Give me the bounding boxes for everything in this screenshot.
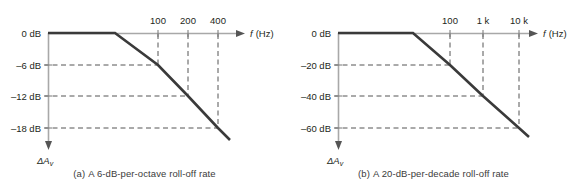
y-tick-label-0: 0 dB <box>311 28 331 39</box>
panel-a-caption: (a)A 6-dB-per-octave roll-off rate <box>0 168 289 179</box>
bode-plot-figure: 100 200 400 0 dB –6 dB –12 dB –18 dB f(H… <box>0 0 578 192</box>
y-tick-labels: 0 dB –20 dB –40 dB –60 dB <box>301 28 331 134</box>
y-axis-label-delta: ΔA <box>36 155 50 166</box>
x-tick-label-2: 400 <box>210 15 226 26</box>
y-tick-label-2: –12 dB <box>11 91 41 102</box>
panel-b-chart: 100 1 k 10 k 0 dB –20 dB –40 dB –60 dB f… <box>289 0 578 192</box>
horizontal-guide-lines <box>334 65 519 128</box>
x-tick-label-1: 200 <box>180 15 196 26</box>
y-tick-labels: 0 dB –6 dB –12 dB –18 dB <box>11 28 41 134</box>
panel-a-caption-text: A 6-dB-per-octave roll-off rate <box>88 168 215 179</box>
x-axis-label: f(Hz) <box>543 28 567 39</box>
panel-b-caption-label: (b) <box>358 168 370 179</box>
panel-a-chart: 100 200 400 0 dB –6 dB –12 dB –18 dB f(H… <box>0 0 289 192</box>
y-axis-label: ΔAv <box>36 155 54 167</box>
x-tick-label-0: 100 <box>442 15 458 26</box>
response-curve <box>338 33 529 137</box>
x-axis-label-unit: (Hz) <box>256 28 274 39</box>
y-tick-label-1: –20 dB <box>301 60 331 71</box>
x-axis-label: f(Hz) <box>250 28 274 39</box>
x-tick-label-1: 1 k <box>477 15 490 26</box>
x-axis-arrow-icon <box>529 30 538 37</box>
x-tick-label-2: 10 k <box>510 15 528 26</box>
vertical-guide-lines <box>450 34 519 128</box>
panel-a-caption-label: (a) <box>73 168 85 179</box>
x-axis-label-variable: f <box>250 28 254 39</box>
y-tick-label-0: 0 dB <box>21 28 41 39</box>
vertical-guide-lines <box>158 34 218 128</box>
x-tick-label-0: 100 <box>150 15 166 26</box>
y-tick-label-3: –18 dB <box>11 123 41 134</box>
x-axis-label-unit: (Hz) <box>549 28 567 39</box>
y-axis-label-delta: ΔA <box>326 155 340 166</box>
y-axis-label-subscript: v <box>50 160 54 167</box>
panel-b-caption-text: A 20-dB-per-decade roll-off rate <box>373 168 509 179</box>
x-tick-labels: 100 200 400 <box>150 15 226 26</box>
y-axis-arrow-icon <box>335 141 342 150</box>
horizontal-guide-lines <box>44 65 218 128</box>
x-axis-arrow-icon <box>236 30 245 37</box>
y-axis <box>335 33 342 150</box>
y-tick-label-1: –6 dB <box>16 60 41 71</box>
response-curve <box>48 33 230 140</box>
y-axis <box>45 33 52 150</box>
y-axis-label-subscript: v <box>340 160 344 167</box>
panel-b-20db-per-decade: 100 1 k 10 k 0 dB –20 dB –40 dB –60 dB f… <box>289 0 578 192</box>
panel-a-6db-per-octave: 100 200 400 0 dB –6 dB –12 dB –18 dB f(H… <box>0 0 289 192</box>
panel-b-caption: (b)A 20-dB-per-decade roll-off rate <box>289 168 578 179</box>
y-axis-label: ΔAv <box>326 155 344 167</box>
y-axis-arrow-icon <box>45 141 52 150</box>
x-tick-labels: 100 1 k 10 k <box>442 15 528 26</box>
y-tick-label-3: –60 dB <box>301 123 331 134</box>
y-tick-label-2: –40 dB <box>301 91 331 102</box>
x-axis-label-variable: f <box>543 28 547 39</box>
